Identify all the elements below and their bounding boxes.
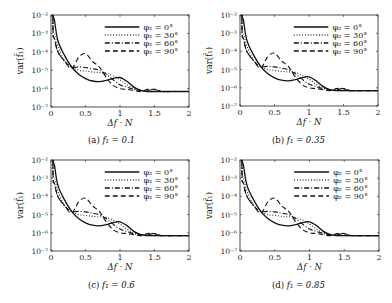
- legend-entry: φ₂ = 90°: [143, 192, 178, 201]
- x-tick-label: 0: [237, 108, 242, 117]
- x-axis-label: Δf · N: [296, 262, 322, 272]
- plot-c: 00.511.52Δf · N10⁻²10⁻³10⁻⁴10⁻⁵10⁻⁶10⁻⁷v…: [0, 145, 196, 295]
- y-tick-label: 10⁻³: [220, 29, 237, 38]
- legend: φ₂ = 0°φ₂ = 30°φ₂ = 60°φ₂ = 90°: [105, 168, 178, 201]
- legend: φ₂ = 0°φ₂ = 30°φ₂ = 60°φ₂ = 90°: [294, 168, 368, 201]
- x-tick-label: 0.5: [79, 109, 92, 118]
- caption-d: (d) f₁ = 0.85: [272, 280, 325, 290]
- y-tick-label: 10⁻⁴: [31, 48, 48, 57]
- caption-value: f₁ = 0.6: [102, 280, 135, 290]
- y-tick-label: 10⁻⁴: [220, 192, 237, 201]
- x-axis-label: Δf · N: [107, 118, 133, 128]
- y-tick-label: 10⁻⁷: [31, 103, 48, 112]
- legend: φ₂ = 0°φ₂ = 30°φ₂ = 60°φ₂ = 90°: [294, 23, 367, 56]
- x-tick-label: 1.5: [148, 253, 161, 262]
- legend-entry: φ₂ = 90°: [333, 192, 368, 201]
- x-tick-label: 0.5: [79, 253, 92, 262]
- caption-value: f₁ = 0.85: [287, 280, 325, 290]
- caption-label: (d): [272, 280, 284, 290]
- y-tick-label: 10⁻⁵: [31, 211, 48, 220]
- panel-a: 00.511.52Δf · N10⁻²10⁻³10⁻⁴10⁻⁵10⁻⁶10⁻⁷v…: [0, 0, 196, 150]
- x-axis-label: Δf · N: [296, 117, 322, 127]
- y-tick-label: 10⁻⁵: [31, 66, 48, 75]
- y-axis-label: var(f̂₁): [14, 192, 25, 220]
- legend-entry: φ₂ = 90°: [332, 47, 367, 56]
- y-axis-label: var(f̂₁): [203, 192, 214, 220]
- plot-d: 00.511.52Δf · N10⁻²10⁻³10⁻⁴10⁻⁵10⁻⁶10⁻⁷v…: [189, 145, 385, 295]
- y-tick-label: 10⁻⁴: [31, 192, 48, 201]
- x-tick-label: 1: [306, 108, 311, 117]
- y-tick-label: 10⁻²: [220, 11, 237, 20]
- y-tick-label: 10⁻²: [31, 11, 48, 20]
- caption-label: (b): [272, 135, 284, 145]
- caption-b: (b) f₁ = 0.35: [272, 135, 325, 145]
- y-tick-label: 10⁻⁶: [220, 229, 237, 238]
- y-tick-label: 10⁻³: [31, 29, 48, 38]
- y-axis-label: var(f̂₁): [14, 47, 25, 75]
- plot-b: 00.511.52Δf · N10⁻²10⁻³10⁻⁴10⁻⁵10⁻⁶10⁻⁷v…: [189, 0, 385, 150]
- x-tick-label: 2: [376, 253, 381, 262]
- y-tick-label: 10⁻²: [220, 156, 237, 165]
- panel-b: 00.511.52Δf · N10⁻²10⁻³10⁻⁴10⁻⁵10⁻⁶10⁻⁷v…: [189, 0, 385, 150]
- caption-c: (c) f₁ = 0.6: [88, 280, 135, 290]
- x-tick-label: 0.5: [268, 253, 281, 262]
- y-tick-label: 10⁻⁷: [220, 102, 237, 111]
- caption-value: f₁ = 0.1: [102, 135, 135, 145]
- x-tick-label: 0: [237, 253, 242, 262]
- legend-entry: φ₂ = 90°: [143, 47, 178, 56]
- y-tick-label: 10⁻⁶: [220, 84, 237, 93]
- x-tick-label: 0.5: [268, 108, 281, 117]
- panel-c: 00.511.52Δf · N10⁻²10⁻³10⁻⁴10⁻⁵10⁻⁶10⁻⁷v…: [0, 145, 196, 295]
- x-tick-label: 1: [307, 253, 312, 262]
- caption-label: (c): [88, 280, 99, 290]
- y-tick-label: 10⁻³: [31, 174, 48, 183]
- x-tick-label: 0: [48, 109, 53, 118]
- x-axis-label: Δf · N: [107, 262, 133, 272]
- plot-a: 00.511.52Δf · N10⁻²10⁻³10⁻⁴10⁻⁵10⁻⁶10⁻⁷v…: [0, 0, 196, 150]
- y-tick-label: 10⁻⁵: [220, 211, 237, 220]
- caption-label: (a): [88, 135, 100, 145]
- x-tick-label: 1.5: [337, 108, 350, 117]
- y-tick-label: 10⁻³: [220, 174, 237, 183]
- y-tick-label: 10⁻⁶: [31, 85, 48, 94]
- y-tick-label: 10⁻²: [31, 156, 48, 165]
- x-tick-label: 2: [375, 108, 380, 117]
- y-tick-label: 10⁻⁶: [31, 229, 48, 238]
- panel-d: 00.511.52Δf · N10⁻²10⁻³10⁻⁴10⁻⁵10⁻⁶10⁻⁷v…: [189, 145, 385, 295]
- caption-value: f₁ = 0.35: [287, 135, 325, 145]
- y-tick-label: 10⁻⁷: [31, 247, 48, 256]
- x-tick-label: 0: [48, 253, 53, 262]
- y-tick-label: 10⁻⁵: [220, 66, 237, 75]
- x-tick-label: 1: [117, 109, 122, 118]
- x-tick-label: 1: [117, 253, 122, 262]
- y-tick-label: 10⁻⁷: [220, 247, 237, 256]
- x-tick-label: 1.5: [338, 253, 351, 262]
- x-tick-label: 1.5: [148, 109, 161, 118]
- y-axis-label: var(f̂₁): [203, 47, 214, 75]
- caption-a: (a) f₁ = 0.1: [88, 135, 135, 145]
- legend: φ₂ = 0°φ₂ = 30°φ₂ = 60°φ₂ = 90°: [105, 23, 178, 56]
- y-tick-label: 10⁻⁴: [220, 47, 237, 56]
